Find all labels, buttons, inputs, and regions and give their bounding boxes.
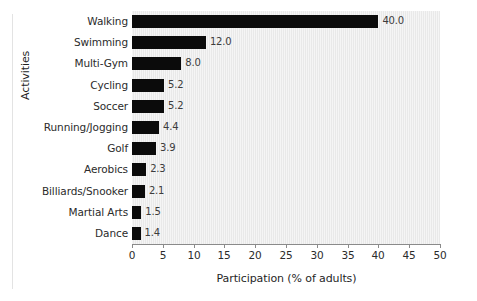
bar-row: 1.4 xyxy=(132,227,440,240)
y-axis-category-labels: WalkingSwimmingMulti-GymCyclingSoccerRun… xyxy=(0,11,128,244)
bar-value-label: 5.2 xyxy=(168,78,183,92)
y-axis-title: Activities xyxy=(19,51,32,100)
bar-value-label: 1.5 xyxy=(145,205,160,219)
category-label-running-jogging: Running/Jogging xyxy=(2,121,128,134)
bar-soccer xyxy=(132,100,164,113)
category-label-aerobics: Aerobics xyxy=(2,163,128,176)
bar-value-label: 12.0 xyxy=(210,35,231,49)
bar-row: 1.5 xyxy=(132,206,440,219)
x-tick-label: 45 xyxy=(396,249,422,262)
bar-row: 5.2 xyxy=(132,79,440,92)
x-axis-title: Participation (% of adults) xyxy=(132,272,441,285)
x-tick-mark xyxy=(255,244,256,248)
x-tick-mark xyxy=(409,244,410,248)
category-label-walking: Walking xyxy=(2,15,128,28)
bar-row: 12.0 xyxy=(132,36,440,49)
category-label-soccer: Soccer xyxy=(2,100,128,113)
bar-value-label: 4.4 xyxy=(163,120,178,134)
x-tick-label: 5 xyxy=(150,249,176,262)
bar-dance xyxy=(132,227,141,240)
bar-value-label: 2.3 xyxy=(150,162,165,176)
bar-aerobics xyxy=(132,163,146,176)
bar-row: 4.4 xyxy=(132,121,440,134)
category-label-swimming: Swimming xyxy=(2,36,128,49)
x-tick-label: 0 xyxy=(119,249,145,262)
bar-row: 2.1 xyxy=(132,185,440,198)
bar-value-label: 1.4 xyxy=(145,226,160,240)
x-tick-label: 10 xyxy=(181,249,207,262)
x-tick-mark xyxy=(163,244,164,248)
bar-golf xyxy=(132,142,156,155)
bar-running-jogging xyxy=(132,121,159,134)
x-tick-label: 30 xyxy=(304,249,330,262)
x-tick-mark xyxy=(348,244,349,248)
bar-cycling xyxy=(132,79,164,92)
x-tick-label: 25 xyxy=(273,249,299,262)
x-tick-label: 40 xyxy=(365,249,391,262)
x-tick-mark xyxy=(286,244,287,248)
bar-value-label: 40.0 xyxy=(382,14,403,28)
x-tick-label: 20 xyxy=(242,249,268,262)
x-tick-label: 35 xyxy=(335,249,361,262)
bar-billiards-snooker xyxy=(132,185,145,198)
bar-value-label: 5.2 xyxy=(168,99,183,113)
category-label-dance: Dance xyxy=(2,227,128,240)
bar-value-label: 8.0 xyxy=(185,56,200,70)
plot-area: 40.012.08.05.25.24.43.92.32.11.51.4 xyxy=(132,11,440,244)
x-tick-mark xyxy=(440,244,441,248)
bar-martial-arts xyxy=(132,206,141,219)
category-label-golf: Golf xyxy=(2,142,128,155)
x-tick-label: 15 xyxy=(211,249,237,262)
x-tick-mark xyxy=(132,244,133,248)
bar-row: 5.2 xyxy=(132,100,440,113)
x-tick-label: 50 xyxy=(427,249,453,262)
bar-value-label: 3.9 xyxy=(160,141,175,155)
bar-swimming xyxy=(132,36,206,49)
category-label-martial-arts: Martial Arts xyxy=(2,206,128,219)
bar-multi-gym xyxy=(132,57,181,70)
x-tick-mark xyxy=(224,244,225,248)
bar-walking xyxy=(132,15,378,28)
bar-row: 2.3 xyxy=(132,163,440,176)
bar-row: 8.0 xyxy=(132,57,440,70)
bar-row: 3.9 xyxy=(132,142,440,155)
x-tick-mark xyxy=(194,244,195,248)
category-label-billiards-snooker: Billiards/Snooker xyxy=(2,185,128,198)
bar-chart-figure: 40.012.08.05.25.24.43.92.32.11.51.4 Walk… xyxy=(0,0,477,301)
x-tick-mark xyxy=(317,244,318,248)
bar-row: 40.0 xyxy=(132,15,440,28)
bar-value-label: 2.1 xyxy=(149,184,164,198)
x-tick-mark xyxy=(378,244,379,248)
